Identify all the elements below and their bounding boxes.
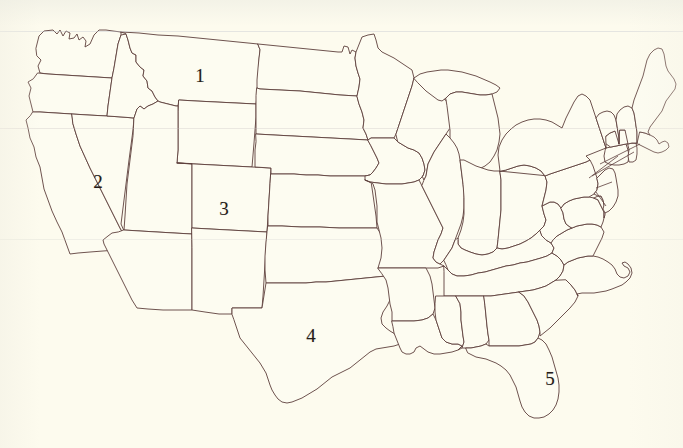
state-maine: [632, 48, 676, 143]
us-outline-map: 1 2 3 4 5: [0, 0, 683, 448]
region-number-2: 2: [93, 172, 103, 191]
state-north-dakota: [257, 44, 360, 96]
map-outline-svg: [0, 0, 683, 448]
region-number-3: 3: [219, 199, 229, 218]
state-indiana: [458, 160, 501, 255]
region-number-4: 4: [306, 326, 316, 345]
state-south-dakota: [256, 88, 368, 140]
state-wyoming: [177, 100, 256, 167]
state-washington: [36, 30, 121, 78]
state-arizona: [103, 230, 192, 310]
state-nebraska: [255, 134, 379, 176]
region-number-5: 5: [545, 369, 555, 388]
state-oregon: [28, 73, 112, 116]
state-kansas: [268, 174, 377, 228]
state-new-mexico: [192, 228, 267, 314]
region-number-1: 1: [195, 66, 205, 85]
